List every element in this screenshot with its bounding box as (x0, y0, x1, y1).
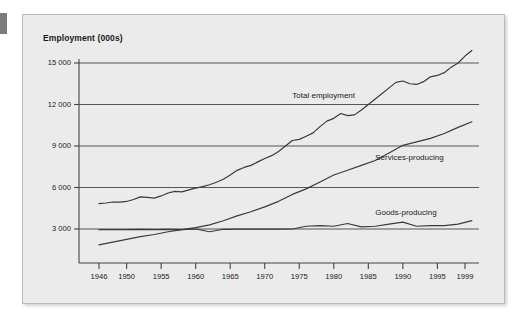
y-axis-label-3000: 3 000 (25, 224, 71, 233)
chart-screenshot: Employment (000s) 3 0006 0009 00012 0001… (0, 0, 528, 323)
x-axis-label-1955: 1955 (146, 272, 176, 281)
x-axis-label-1975: 1975 (284, 272, 314, 281)
y-axis-label-12000: 12 000 (25, 100, 71, 109)
x-axis-label-1995: 1995 (422, 272, 452, 281)
x-axis-label-1960: 1960 (181, 272, 211, 281)
x-axis-label-1999: 1999 (450, 272, 480, 281)
x-axis-label-1970: 1970 (250, 272, 280, 281)
y-axis-label-15000: 15 000 (25, 58, 71, 67)
x-axis-label-1965: 1965 (215, 272, 245, 281)
series-label-goods-producing: Goods-producing (375, 208, 436, 217)
series-line-total-employment (99, 51, 472, 204)
series-line-goods-producing (99, 221, 472, 232)
chart-panel: Employment (000s) 3 0006 0009 00012 0001… (22, 14, 505, 304)
x-axis-label-1980: 1980 (319, 272, 349, 281)
page-edge-marker (0, 13, 7, 34)
x-axis-label-1946: 1946 (84, 272, 114, 281)
y-axis-label-6000: 6 000 (25, 183, 71, 192)
x-axis-label-1985: 1985 (353, 272, 383, 281)
x-axis-label-1990: 1990 (388, 272, 418, 281)
series-label-services-producing: Services-producing (375, 153, 443, 162)
series-label-total-employment: Total employment (292, 91, 355, 100)
y-axis-label-9000: 9 000 (25, 141, 71, 150)
x-axis-label-1950: 1950 (112, 272, 142, 281)
